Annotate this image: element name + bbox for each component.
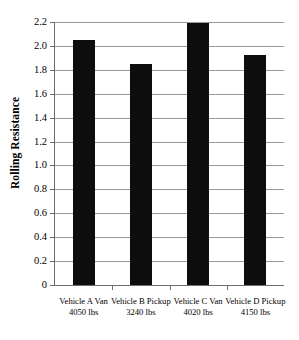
- bar: [244, 55, 266, 285]
- y-tick-mark: [50, 285, 54, 286]
- y-tick-mark: [50, 22, 54, 23]
- x-axis-label-weight: 3240 lbs: [108, 307, 173, 318]
- y-tick-label: 1.8: [7, 65, 47, 76]
- plot-area: [55, 22, 284, 285]
- y-tick-label: 0.8: [7, 184, 47, 195]
- x-axis-label: Vehicle D Pickup4150 lbs: [223, 296, 288, 318]
- bar-chart-figure: Rolling Resistance 00.20.40.60.81.01.21.…: [0, 0, 299, 340]
- x-axis-label: Vehicle B Pickup3240 lbs: [108, 296, 173, 318]
- x-tick-mark: [170, 285, 171, 290]
- x-axis-label-weight: 4020 lbs: [166, 307, 231, 318]
- y-tick-label: 2.0: [7, 41, 47, 52]
- x-axis-label-name: Vehicle D Pickup: [223, 296, 288, 307]
- y-tick-label: 0.6: [7, 208, 47, 219]
- y-tick-mark: [50, 94, 54, 95]
- x-axis-label: Vehicle A Van4050 lbs: [51, 296, 116, 318]
- x-axis-label-weight: 4050 lbs: [51, 307, 116, 318]
- y-tick-label: 1.0: [7, 160, 47, 171]
- x-axis-label-weight: 4150 lbs: [223, 307, 288, 318]
- y-tick-mark: [50, 118, 54, 119]
- bar: [73, 40, 95, 285]
- y-tick-mark: [50, 46, 54, 47]
- x-axis-label-name: Vehicle C Van: [166, 296, 231, 307]
- x-axis-labels: Vehicle A Van4050 lbsVehicle B Pickup324…: [55, 296, 284, 332]
- x-tick-mark: [112, 285, 113, 290]
- y-tick-mark: [50, 237, 54, 238]
- y-tick-mark: [50, 142, 54, 143]
- gridline: [55, 22, 284, 23]
- x-axis-label-name: Vehicle B Pickup: [108, 296, 173, 307]
- y-tick-label: 0.4: [7, 232, 47, 243]
- y-tick-mark: [50, 165, 54, 166]
- y-tick-label: 0: [7, 280, 47, 291]
- bar: [187, 23, 209, 285]
- y-tick-mark: [50, 70, 54, 71]
- y-tick-mark: [50, 261, 54, 262]
- y-tick-mark: [50, 213, 54, 214]
- x-axis-label-name: Vehicle A Van: [51, 296, 116, 307]
- y-tick-mark: [50, 189, 54, 190]
- y-tick-label: 2.2: [7, 17, 47, 28]
- x-axis-label: Vehicle C Van4020 lbs: [166, 296, 231, 318]
- y-tick-label: 1.2: [7, 137, 47, 148]
- x-tick-mark: [227, 285, 228, 290]
- y-tick-label: 1.6: [7, 89, 47, 100]
- y-tick-label: 1.4: [7, 113, 47, 124]
- bar: [130, 64, 152, 285]
- y-tick-label: 0.2: [7, 256, 47, 267]
